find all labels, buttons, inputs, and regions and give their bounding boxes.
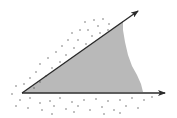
dot <box>11 93 12 94</box>
dot <box>103 113 104 114</box>
dot <box>59 97 60 98</box>
dot <box>137 107 138 108</box>
dot <box>95 98 96 99</box>
dot <box>108 23 109 24</box>
dot <box>101 106 102 107</box>
dot <box>113 109 114 110</box>
dot <box>71 32 72 33</box>
dot <box>71 101 72 102</box>
dot <box>85 43 86 44</box>
dot <box>61 45 62 46</box>
dot <box>84 21 85 22</box>
dot <box>29 77 30 78</box>
dot <box>65 54 66 55</box>
dot <box>73 47 74 48</box>
dot <box>35 71 36 72</box>
dot <box>97 25 98 26</box>
dot <box>89 109 90 110</box>
dot <box>151 96 152 97</box>
dot <box>41 109 42 110</box>
dot <box>15 105 16 106</box>
dot <box>27 107 28 108</box>
dot <box>59 61 60 62</box>
angle-diagram <box>0 0 177 118</box>
dot <box>87 29 88 30</box>
dot <box>47 57 48 58</box>
dot <box>55 51 56 52</box>
dot <box>131 97 132 98</box>
dot <box>65 108 66 109</box>
dot <box>77 39 78 40</box>
dot <box>39 102 40 103</box>
dot <box>51 67 52 68</box>
dot <box>51 113 52 114</box>
dot <box>67 39 68 40</box>
dot <box>49 100 50 101</box>
dot <box>53 105 54 106</box>
dot <box>29 97 30 98</box>
dot <box>125 105 126 106</box>
dot <box>93 19 94 20</box>
dot <box>39 63 40 64</box>
dot <box>83 99 84 100</box>
dot <box>19 99 20 100</box>
dot <box>33 87 34 88</box>
dot <box>77 105 78 106</box>
dot <box>79 29 80 30</box>
dot <box>143 99 144 100</box>
dot <box>91 35 92 36</box>
dot <box>102 18 103 19</box>
dot <box>73 111 74 112</box>
dot <box>119 99 120 100</box>
dot <box>107 100 108 101</box>
dot <box>107 29 108 30</box>
dot <box>23 83 24 84</box>
dot <box>39 81 40 82</box>
dot <box>15 85 16 86</box>
dot <box>119 112 120 113</box>
dot <box>99 32 100 33</box>
